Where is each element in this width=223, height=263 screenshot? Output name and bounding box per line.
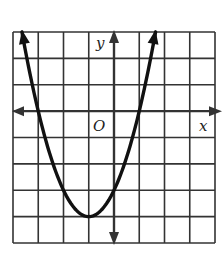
y-axis-label: y <box>95 34 105 52</box>
coordinate-plane: y O x <box>0 0 223 263</box>
origin-label: O <box>93 117 105 135</box>
x-axis-label: x <box>199 117 208 135</box>
